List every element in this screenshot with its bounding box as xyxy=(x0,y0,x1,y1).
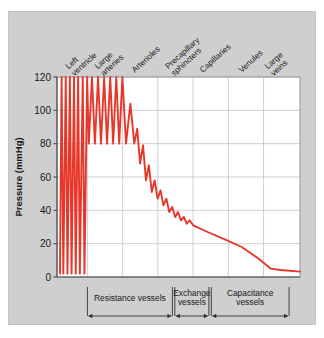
y-tick-label: 120 xyxy=(34,72,51,83)
vessel-group-exchange-vessels: Exchangevessels xyxy=(173,287,211,318)
vessel-group-brackets: Resistance vesselsExchangevesselsCapacit… xyxy=(87,287,289,318)
y-tick-label: 80 xyxy=(40,138,52,149)
y-axis-title: Pressure (mmHg) xyxy=(13,137,24,216)
y-tick-label: 100 xyxy=(34,105,51,116)
figure-container: 020406080100120 Pressure (mmHg) Leftvent… xyxy=(0,0,324,338)
category-label-text: Capillaries xyxy=(198,42,232,74)
bracket-arrow-right xyxy=(284,314,288,319)
category-label-text: Venules xyxy=(237,48,265,74)
category-label-large-arteries: Largearteries xyxy=(93,46,125,78)
bracket-arrow-left xyxy=(212,314,216,319)
bracket-arrow-right xyxy=(167,314,171,319)
category-label-capillaries: Capillaries xyxy=(198,42,232,74)
category-label-text: Arterioles xyxy=(130,45,162,75)
vessel-group-capacitance-vessels: Capacitancevessels xyxy=(211,287,289,318)
y-tick-label: 0 xyxy=(45,272,51,283)
vessel-group-label: vessels xyxy=(236,297,264,307)
y-tick-label: 20 xyxy=(40,238,52,249)
category-labels: LeftventricleLargearteriesArteriolesPrec… xyxy=(64,35,291,78)
bracket-arrow-left xyxy=(88,314,92,319)
bracket-arrow-left xyxy=(176,314,180,319)
y-tick-label: 40 xyxy=(40,205,52,216)
blood-pressure-chart: 020406080100120 Pressure (mmHg) Leftvent… xyxy=(0,0,324,338)
vessel-group-label: vessels xyxy=(178,297,206,307)
bracket-arrow-right xyxy=(204,314,208,319)
category-label-arterioles: Arterioles xyxy=(130,45,162,75)
category-label-left-ventricle: Leftventricle xyxy=(64,44,99,78)
vessel-group-resistance-vessels: Resistance vessels xyxy=(87,287,172,318)
y-tick-label: 60 xyxy=(40,172,52,183)
y-axis-ticks: 020406080100120 xyxy=(34,72,57,283)
category-label-venules: Venules xyxy=(237,48,265,74)
vessel-group-label: Resistance vessels xyxy=(94,293,166,303)
category-label-large-veins: Largeveins xyxy=(263,50,291,78)
